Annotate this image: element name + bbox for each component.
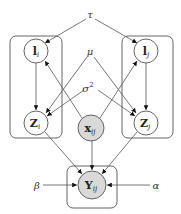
edge-xij-lj (100, 61, 137, 118)
node-z-i-sub: i (38, 123, 40, 131)
param-sigma-exp: 2 (89, 81, 93, 89)
edge-xij-li (45, 61, 82, 118)
edges (36, 19, 150, 185)
node-x-ij: xij (78, 115, 104, 141)
graphical-model-diagram: τ μ σ2 β α li Zi lj Zj xij Yij (0, 0, 181, 214)
param-mu: μ (87, 46, 94, 57)
param-sigma: σ2 (82, 81, 93, 94)
edge-zj-yij (102, 132, 137, 174)
param-beta: β (33, 180, 40, 191)
edge-mu-zj (94, 57, 136, 113)
node-l-i-sub: i (37, 51, 39, 59)
edge-mu-zi (46, 57, 87, 113)
edge-tau-li (45, 19, 86, 43)
node-z-i-main: Z (30, 117, 38, 130)
edge-tau-lj (95, 19, 137, 43)
node-z-i: Zi (24, 111, 48, 135)
node-l-i: li (24, 39, 48, 63)
edge-zi-yij (45, 132, 82, 174)
node-l-j: lj (134, 39, 158, 63)
node-z-j-main: Z (140, 117, 148, 130)
param-tau: τ (87, 9, 93, 20)
node-y-ij-main: Y (84, 179, 93, 192)
node-z-j: Zj (134, 111, 158, 135)
node-y-ij: Yij (78, 171, 106, 199)
param-alpha: α (153, 180, 160, 191)
